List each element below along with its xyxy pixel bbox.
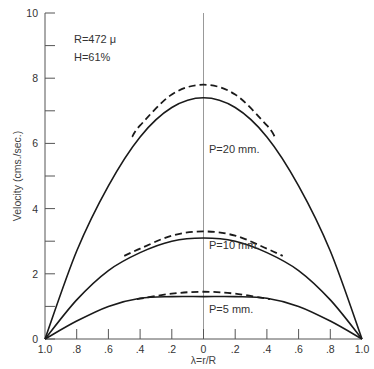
curve-label: P=5 mm. bbox=[209, 303, 253, 315]
x-tick-label: .4 bbox=[136, 343, 145, 355]
y-axis-title: Velocity (cms./sec.) bbox=[11, 131, 23, 221]
velocity-profile-chart: 02468101.0.8.6.4.20.2.4.6.81.0λ=r/RVeloc… bbox=[0, 0, 374, 369]
y-tick-label: 8 bbox=[32, 72, 38, 84]
curve-label: P=10 mm. bbox=[209, 239, 259, 251]
y-tick-label: 10 bbox=[26, 7, 38, 19]
labels: 02468101.0.8.6.4.20.2.4.6.81.0λ=r/RVeloc… bbox=[11, 7, 369, 366]
y-tick-label: 2 bbox=[32, 268, 38, 280]
x-tick-label: 1.0 bbox=[38, 343, 53, 355]
y-tick-label: 4 bbox=[32, 203, 38, 215]
y-tick-label: 6 bbox=[32, 137, 38, 149]
humidity-annotation: H=61% bbox=[74, 51, 111, 63]
x-tick-label: .6 bbox=[104, 343, 113, 355]
x-tick-label: .6 bbox=[294, 343, 303, 355]
x-axis-title: λ=r/R bbox=[191, 354, 217, 366]
x-tick-label: .2 bbox=[231, 343, 240, 355]
x-tick-label: .8 bbox=[326, 343, 335, 355]
x-tick-label: 1.0 bbox=[355, 343, 370, 355]
x-tick-label: .2 bbox=[167, 343, 176, 355]
curve-label: P=20 mm. bbox=[209, 143, 259, 155]
x-tick-label: .4 bbox=[263, 343, 272, 355]
radius-annotation: R=472 μ bbox=[74, 33, 116, 45]
x-tick-label: .8 bbox=[72, 343, 81, 355]
